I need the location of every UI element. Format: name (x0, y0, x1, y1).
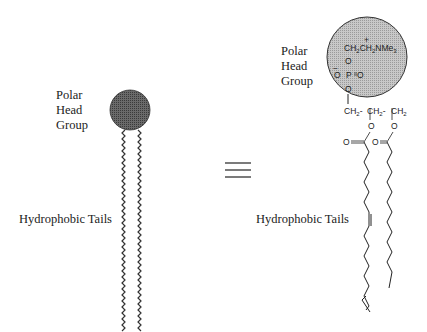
ester-o-1: O (368, 121, 375, 131)
phosphate-o-right: O (357, 70, 364, 80)
right-polar-head-icon (327, 17, 407, 97)
phosphorus: P (346, 70, 352, 80)
choline-formula: CH2CH2NMe3 (344, 43, 397, 54)
equivalence-icon (225, 163, 251, 177)
ester-o-2: O (391, 121, 398, 131)
minus-charge: − (333, 63, 338, 73)
bridge-o-bottom: O (345, 84, 352, 94)
carbonyl-o-2: O (372, 137, 379, 147)
unsaturated-tail-icon (364, 142, 369, 310)
carbonyl-o-1: O (343, 137, 350, 147)
bridge-o-top: O (345, 56, 352, 66)
left-tail-2-icon (138, 130, 141, 331)
plus-charge: + (364, 35, 369, 45)
left-polar-head-icon (110, 90, 150, 130)
glycerol-c1: CH2- (344, 106, 363, 117)
left-tail-1-icon (122, 130, 125, 331)
saturated-tail-icon (387, 142, 392, 288)
phospholipid-diagram: CH2CH2NMe3 + O O − P O O CH2- CH2- CH2 O… (0, 0, 427, 332)
glycerol-c3: CH2 (391, 106, 407, 117)
